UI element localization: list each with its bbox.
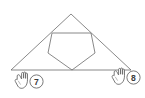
pointing-hand-cursor-icon xyxy=(15,72,27,88)
marker-8-badge: 8 xyxy=(127,71,140,84)
marker-8-graphics: 8 xyxy=(110,66,144,88)
click-marker-8[interactable]: 8 xyxy=(110,66,144,88)
marker-7-badge-label: 7 xyxy=(34,77,39,87)
click-marker-7[interactable]: 7 xyxy=(13,70,47,92)
marker-7-badge: 7 xyxy=(30,75,43,88)
figure-canvas: 7 8 xyxy=(0,0,145,98)
inner-pentagon xyxy=(48,33,95,70)
pointing-hand-cursor-icon xyxy=(112,68,124,84)
marker-7-graphics: 7 xyxy=(13,70,47,92)
outer-triangle xyxy=(11,14,131,70)
marker-8-badge-label: 8 xyxy=(131,73,136,83)
